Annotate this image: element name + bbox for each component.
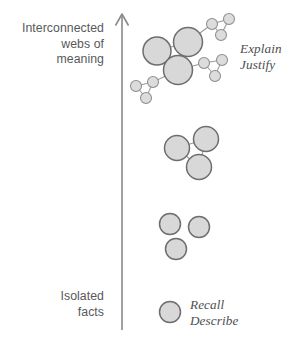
node-circle <box>174 28 203 57</box>
node-circle <box>160 214 181 235</box>
node-circle <box>199 58 210 69</box>
node-circle <box>187 155 212 180</box>
node-circle <box>216 30 227 41</box>
node-circles <box>131 14 235 323</box>
vertical-progression-arrow <box>116 14 128 330</box>
knowledge-structure-diagram: Interconnected webs of meaning Isolated … <box>0 0 296 350</box>
node-circle <box>194 127 219 152</box>
node-circle <box>160 302 181 323</box>
node-circle <box>165 136 190 161</box>
node-circle <box>189 217 210 238</box>
node-circle <box>141 93 152 104</box>
node-circle <box>166 239 187 260</box>
node-circle <box>210 71 221 82</box>
node-circle <box>131 81 142 92</box>
verb-label-bottom: Recall Describe <box>190 297 296 330</box>
node-circle <box>217 55 228 66</box>
verb-label-top: Explain Justify <box>240 41 296 74</box>
node-circle <box>164 56 193 85</box>
axis-label-bottom: Isolated facts <box>0 289 104 320</box>
node-circle <box>224 14 235 25</box>
axis-label-top: Interconnected webs of meaning <box>0 21 104 68</box>
node-circle <box>148 77 159 88</box>
node-circle <box>207 19 218 30</box>
